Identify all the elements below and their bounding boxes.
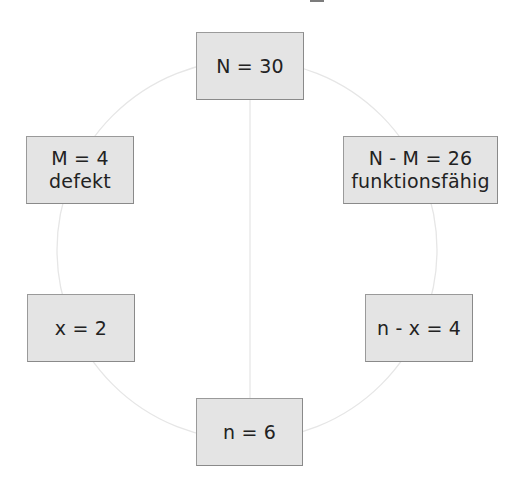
node-defective: M = 4 defekt: [26, 136, 134, 204]
node-functional-count: N - M = 26: [369, 147, 473, 170]
node-sample: n = 6: [196, 398, 303, 466]
node-drawn-defective: x = 2: [27, 294, 135, 362]
node-functional-label: funktionsfähig: [351, 170, 490, 193]
diagram-canvas: N = 30 M = 4 defekt N - M = 26 funktions…: [0, 0, 517, 492]
node-defective-label: defekt: [49, 170, 111, 193]
node-functional: N - M = 26 funktionsfähig: [343, 136, 498, 204]
node-drawn-functional: n - x = 4: [365, 294, 473, 362]
node-drawn-functional-label: n - x = 4: [377, 317, 461, 340]
node-total-label: N = 30: [216, 55, 284, 78]
node-sample-label: n = 6: [223, 421, 276, 444]
node-drawn-defective-label: x = 2: [55, 317, 107, 340]
connector-circle: [57, 60, 437, 440]
node-defective-count: M = 4: [51, 147, 108, 170]
node-total-population: N = 30: [196, 32, 304, 100]
